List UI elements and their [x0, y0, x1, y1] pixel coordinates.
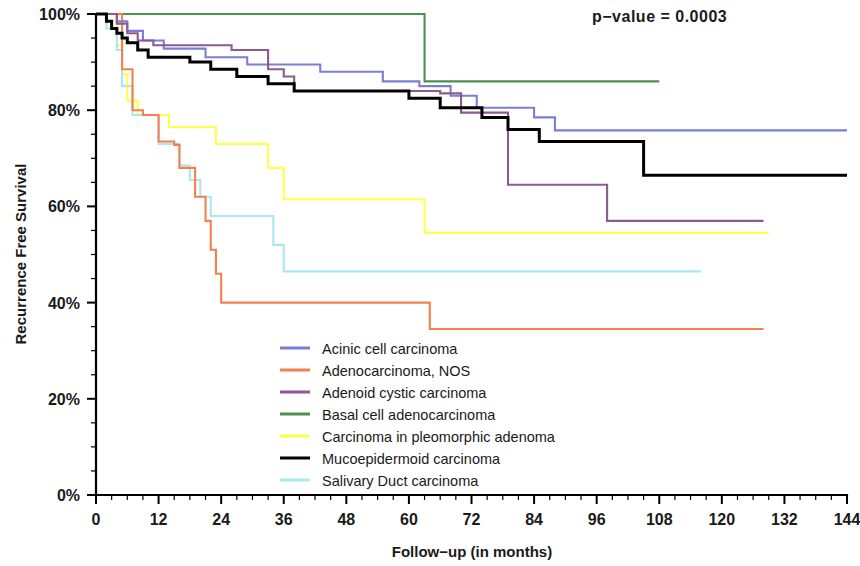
legend-item-basal-cell-adenocarcinoma: Basal cell adenocarcinoma — [280, 407, 496, 423]
legend-label-salivary-duct-carcinoma: Salivary Duct carcinoma — [322, 473, 479, 489]
legend-item-mucoepidermoid-carcinoma: Mucoepidermoid carcinoma — [280, 451, 501, 467]
legend-item-carcinoma-in-pleomorphic-adenoma: Carcinoma in pleomorphic adenoma — [280, 429, 556, 445]
x-axis-tick-label: 108 — [646, 511, 673, 528]
x-axis-tick-label: 48 — [337, 511, 355, 528]
x-axis-tick-label: 36 — [275, 511, 293, 528]
legend-label-carcinoma-in-pleomorphic-adenoma: Carcinoma in pleomorphic adenoma — [322, 429, 556, 445]
x-axis-title: Follow−up (in months) — [392, 543, 552, 560]
kaplan-meier-figure: 012243648607284961081201321440%20%40%60%… — [0, 0, 860, 566]
y-axis-tick-label: 0% — [57, 487, 80, 504]
y-axis-tick-label: 80% — [48, 102, 80, 119]
x-axis-tick-label: 24 — [212, 511, 230, 528]
legend-item-salivary-duct-carcinoma: Salivary Duct carcinoma — [280, 473, 479, 489]
chart-legend: Acinic cell carcinomaAdenocarcinoma, NOS… — [280, 341, 556, 489]
y-axis-tick-label: 20% — [48, 391, 80, 408]
x-axis-tick-label: 12 — [150, 511, 168, 528]
y-axis-tick-label: 60% — [48, 198, 80, 215]
legend-label-adenocarcinoma-nos: Adenocarcinoma, NOS — [322, 363, 470, 379]
x-axis-tick-label: 60 — [400, 511, 418, 528]
x-axis-tick-label: 72 — [463, 511, 481, 528]
x-axis-tick-label: 120 — [708, 511, 735, 528]
legend-label-acinic-cell-carcinoma: Acinic cell carcinoma — [322, 341, 458, 357]
survival-chart-canvas: 012243648607284961081201321440%20%40%60%… — [0, 0, 860, 566]
legend-label-basal-cell-adenocarcinoma: Basal cell adenocarcinoma — [322, 407, 496, 423]
y-axis-tick-label: 100% — [39, 6, 80, 23]
p-value-annotation: p−value = 0.0003 — [592, 8, 727, 25]
x-axis-tick-label: 84 — [525, 511, 543, 528]
x-axis-tick-label: 0 — [92, 511, 101, 528]
survival-curve-mucoepidermoid-carcinoma — [96, 14, 847, 175]
x-axis-tick-label: 132 — [771, 511, 798, 528]
x-axis-tick-label: 144 — [834, 511, 860, 528]
legend-item-adenoid-cystic-carcinoma: Adenoid cystic carcinoma — [280, 385, 487, 401]
legend-item-adenocarcinoma-nos: Adenocarcinoma, NOS — [280, 363, 470, 379]
x-axis-tick-label: 96 — [588, 511, 606, 528]
survival-curves — [96, 14, 847, 329]
y-axis-title: Recurrence Free Survival — [12, 164, 29, 345]
legend-label-adenoid-cystic-carcinoma: Adenoid cystic carcinoma — [322, 385, 487, 401]
legend-label-mucoepidermoid-carcinoma: Mucoepidermoid carcinoma — [322, 451, 501, 467]
survival-curve-carcinoma-in-pleomorphic-adenoma — [96, 14, 769, 233]
axis-spine — [96, 14, 847, 495]
y-axis-tick-label: 40% — [48, 295, 80, 312]
legend-item-acinic-cell-carcinoma: Acinic cell carcinoma — [280, 341, 458, 357]
